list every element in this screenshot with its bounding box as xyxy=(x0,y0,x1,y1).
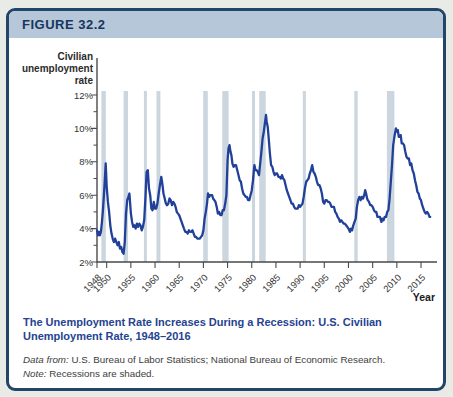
note-line: Note: Recessions are shaded. xyxy=(23,367,429,381)
recession-band xyxy=(303,91,306,262)
y-tick-label: 2% xyxy=(79,257,93,268)
y-axis-title: unemployment xyxy=(22,63,94,74)
note-text: Recessions are shaded. xyxy=(49,368,154,379)
figure-card: FIGURE 32.2 2%4%6%8%10%12%19481950195519… xyxy=(6,8,446,391)
figure-source-note: Data from: U.S. Bureau of Labor Statisti… xyxy=(9,353,443,381)
unemployment-chart: 2%4%6%8%10%12%19481950195519601965197019… xyxy=(9,38,443,308)
y-tick-label: 6% xyxy=(79,190,93,201)
figure-caption-title: The Unemployment Rate Increases During a… xyxy=(9,315,443,344)
x-tick-label: 2000 xyxy=(333,272,355,294)
x-tick-label: 2005 xyxy=(357,272,379,294)
figure-label: FIGURE 32.2 xyxy=(22,17,106,32)
source-text: U.S. Bureau of Labor Statistics; Nationa… xyxy=(71,354,385,365)
y-axis-title: Civilian xyxy=(57,51,93,62)
y-tick-label: 10% xyxy=(74,123,94,134)
x-tick-label: 1955 xyxy=(116,272,138,294)
y-tick-label: 12% xyxy=(74,90,94,101)
recession-band xyxy=(354,91,357,262)
x-tick-label: 1975 xyxy=(212,272,234,294)
axes xyxy=(97,58,437,262)
x-tick-label: 1980 xyxy=(237,272,259,294)
x-tick-label: 1970 xyxy=(188,272,210,294)
x-tick-label: 1960 xyxy=(140,272,162,294)
x-tick-label: 1990 xyxy=(285,272,307,294)
recession-band xyxy=(157,91,161,262)
y-axis-title: rate xyxy=(75,75,94,86)
source-line: Data from: U.S. Bureau of Labor Statisti… xyxy=(23,353,429,367)
chart-area: 2%4%6%8%10%12%19481950195519601965197019… xyxy=(9,38,443,308)
recession-band xyxy=(203,91,208,262)
y-tick-label: 8% xyxy=(79,156,93,167)
y-tick-label: 4% xyxy=(79,223,93,234)
x-tick-label: 1995 xyxy=(309,272,331,294)
source-prefix: Data from: xyxy=(23,354,71,365)
x-tick-label: 2010 xyxy=(382,272,404,294)
note-prefix: Note: xyxy=(23,368,49,379)
figure-header-banner: FIGURE 32.2 xyxy=(9,11,443,38)
x-tick-label: 1965 xyxy=(164,272,186,294)
x-axis-title: Year xyxy=(413,291,435,303)
x-tick-label: 1985 xyxy=(261,272,283,294)
